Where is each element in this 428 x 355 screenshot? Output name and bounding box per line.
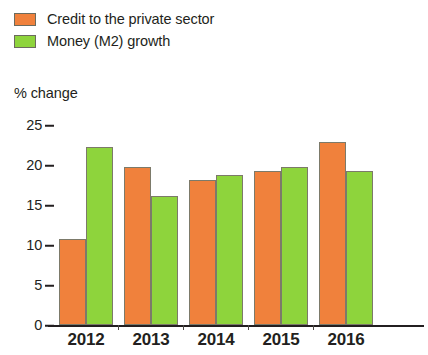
y-axis-tick-label: 10	[26, 237, 42, 253]
y-axis-tick-10: 10	[0, 238, 54, 253]
y-axis-tick-20: 20	[0, 158, 54, 173]
y-axis-tick-label: 25	[26, 117, 42, 133]
bar-2016-credit	[319, 142, 346, 325]
bar-2015-money	[281, 167, 308, 325]
y-axis-tick-5: 5	[0, 278, 54, 293]
y-axis-tick-dash	[45, 285, 54, 287]
y-axis-tick-25: 25	[0, 118, 54, 133]
bar-chart-plot: 0510152025 20122013201420152016	[0, 0, 428, 355]
y-axis-tick-label: 5	[34, 277, 42, 293]
bar-2016-money	[346, 171, 373, 325]
bar-2014-money	[216, 175, 243, 325]
bar-2013-money	[151, 196, 178, 325]
y-axis-tick-15: 15	[0, 198, 54, 213]
x-axis-tickmark	[183, 325, 184, 330]
y-axis-tick-label: 15	[26, 197, 42, 213]
bar-2012-credit	[59, 239, 86, 325]
x-axis-tickmark	[313, 325, 314, 330]
y-axis-tick-dash	[45, 245, 54, 247]
y-axis-tick-dash	[45, 125, 54, 127]
x-axis-label-2016: 2016	[319, 331, 373, 348]
y-axis-tick-label: 20	[26, 157, 42, 173]
x-axis-tickmark	[248, 325, 249, 330]
y-axis-tick-dash	[45, 165, 54, 167]
bar-2012-money	[86, 147, 113, 325]
x-axis-label-2015: 2015	[254, 331, 308, 348]
y-axis-tick-dash	[45, 205, 54, 207]
bar-2013-credit	[124, 167, 151, 325]
x-axis-label-2012: 2012	[59, 331, 113, 348]
y-axis-tick-0: 0	[0, 318, 54, 333]
bar-2014-credit	[189, 180, 216, 325]
y-axis-tick-label: 0	[34, 317, 42, 333]
x-axis-tickmark	[118, 325, 119, 330]
x-axis-label-2013: 2013	[124, 331, 178, 348]
bar-2015-credit	[254, 171, 281, 325]
x-axis-label-2014: 2014	[189, 331, 243, 348]
x-axis-line	[48, 325, 424, 327]
